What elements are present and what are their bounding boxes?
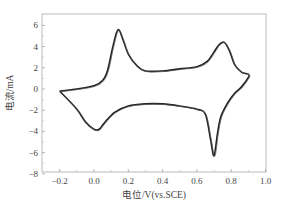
y-axis-label: 电流/mA [4,74,15,111]
x-tick-label: 0.0 [88,176,100,186]
y-tick-label: −4 [28,126,38,136]
y-tick-label: 0 [34,84,39,94]
x-axis-label: 电位/V(vs.SCE) [122,189,186,201]
x-tick-label: 0.4 [157,176,169,186]
x-axis-ticks: −0.20.00.20.40.60.81.0 [52,169,272,186]
plot-frame [42,14,266,172]
cv-chart: 6420−2−4−6−8 −0.20.00.20.40.60.81.0 电位/V… [0,0,283,209]
x-tick-label: 0.2 [123,176,134,186]
y-tick-label: 4 [34,42,39,52]
y-tick-label: −6 [28,148,38,158]
cv-curve [60,30,250,156]
y-axis-ticks: 6420−2−4−6−8 [28,20,45,178]
x-tick-label: 0.8 [226,176,238,186]
x-tick-label: −0.2 [52,176,68,186]
y-tick-label: 6 [34,20,39,30]
y-tick-label: −8 [28,169,38,179]
x-tick-label: 0.6 [191,176,203,186]
y-tick-label: −2 [28,105,38,115]
x-tick-label: 1.0 [260,176,272,186]
cv-curve-shadow [61,30,251,156]
y-tick-label: 2 [34,63,39,73]
